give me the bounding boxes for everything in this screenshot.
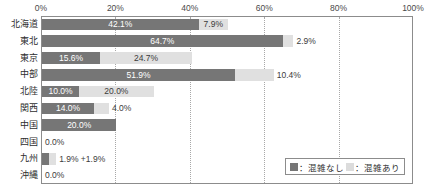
bar-segment-no-congestion: 42.1% [42,19,199,31]
chart-row: 東京15.6%24.7% [0,50,427,67]
bar-track: 20.0% [42,117,414,134]
bar-value-label: 15.6% [59,54,83,63]
bar-track: 0.0% [42,134,414,151]
row-category-label: 中部 [0,66,38,83]
bar-segment-no-congestion: 51.9% [42,69,235,81]
bar-track: 14.0%4.0% [42,100,414,117]
bar-segment-no-congestion: 15.6% [42,52,100,64]
x-axis-tick-label: 80% [330,2,347,14]
legend-item: ：混雑あり [346,161,400,173]
legend-item: ：混雑なし [290,161,344,173]
bar-segment-no-congestion: 20.0% [42,119,116,131]
chart-row: 北陸10.0%20.0% [0,83,427,100]
bar-value-label: 51.9% [126,71,150,80]
bar-segment-congestion [283,35,294,47]
bar-value-label: 24.7% [134,54,158,63]
row-category-label: 沖縄 [0,167,38,184]
bar-segment-congestion [235,69,274,81]
bar-track: 51.9%10.4% [42,66,414,83]
stacked-bar: 14.0% [42,103,109,115]
bar-value-label: 42.1% [108,20,132,29]
row-category-label: 東北 [0,33,38,50]
row-category-label: 北海道 [0,16,38,33]
bar-segment-congestion [49,153,56,165]
x-axis-tick-label: 60% [256,2,273,14]
bar-value-label: 20.0% [104,87,128,96]
x-axis-tick-label: 40% [181,2,198,14]
bar-value-label: 64.7% [150,37,174,46]
bar-track: 15.6%24.7% [42,50,414,67]
bar-segment-congestion: 7.9% [199,19,228,31]
bar-segment-no-congestion: 64.7% [42,35,283,47]
bar-value-label: 7.9% [204,20,223,29]
bar-segment-congestion: 24.7% [100,52,192,64]
chart-row: 北海道42.1%7.9% [0,16,427,33]
chart-row: 中部51.9%10.4% [0,66,427,83]
bar-track: 10.0%20.0% [42,83,414,100]
stacked-bar: 64.7% [42,35,293,47]
stacked-bar [42,153,56,165]
chart-row: 東北64.7%2.9% [0,33,427,50]
bar-segment-no-congestion [42,153,49,165]
x-axis-tick-label: 100% [402,2,424,14]
bar-value-label: 0.0% [45,136,64,148]
row-category-label: 関西 [0,100,38,117]
bar-value-label: 10.4% [277,69,301,81]
stacked-bar: 10.0%20.0% [42,86,154,98]
stacked-bar: 42.1%7.9% [42,19,228,31]
bar-value-label: 10.0% [49,87,73,96]
x-axis-tick-label: 20% [107,2,124,14]
x-axis-tick-labels: 0%20%40%60%80%100% [0,2,427,16]
chart-row: 中国20.0% [0,117,427,134]
row-category-label: 九州 [0,150,38,167]
bar-value-label: 2.9% [296,35,315,47]
chart-row: 関西14.0%4.0% [0,100,427,117]
bar-value-label: 4.0% [112,103,131,115]
bar-track: 42.1%7.9% [42,16,414,33]
row-category-label: 四国 [0,134,38,151]
bar-segment-no-congestion: 14.0% [42,103,94,115]
chart-legend: ：混雑なし：混雑あり [285,158,405,175]
bar-value-label: 14.0% [56,104,80,113]
bar-segment-congestion [94,103,109,115]
stacked-bar: 51.9% [42,69,274,81]
row-category-label: 北陸 [0,83,38,100]
bar-value-label: 1.9% +1.9% [59,153,105,165]
light-swatch-icon [346,163,354,171]
legend-label: ：混雑あり [355,161,400,173]
stacked-bar-chart: 0%20%40%60%80%100% 北海道42.1%7.9%東北64.7%2.… [0,0,427,196]
bar-segment-congestion: 20.0% [79,86,153,98]
row-category-label: 東京 [0,50,38,67]
row-category-label: 中国 [0,117,38,134]
stacked-bar: 15.6%24.7% [42,52,192,64]
stacked-bar: 20.0% [42,119,116,131]
chart-row: 四国0.0% [0,134,427,151]
dark-swatch-icon [290,163,298,171]
x-axis-tick-label: 0% [35,2,47,14]
bar-value-label: 20.0% [67,121,91,130]
legend-label: ：混雑なし [299,161,344,173]
bar-value-label: 0.0% [45,170,64,182]
bar-segment-no-congestion: 10.0% [42,86,79,98]
bar-track: 64.7%2.9% [42,33,414,50]
